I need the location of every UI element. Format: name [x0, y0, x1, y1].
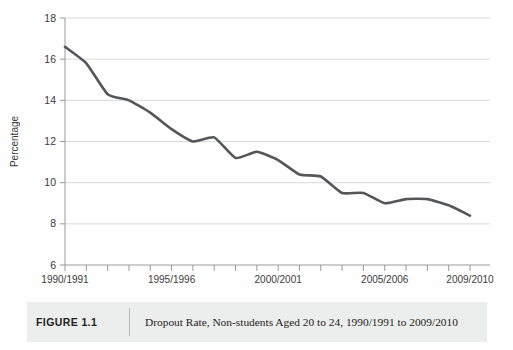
x-axis-tick-label: 1990/1991: [41, 274, 89, 285]
y-axis-tick-label: 14: [44, 94, 56, 106]
figure-number-label: FIGURE 1.1: [36, 316, 97, 328]
y-axis-tick-label: 8: [50, 217, 56, 229]
y-axis-tick-label: 16: [44, 53, 56, 65]
line-chart: 6810121416181990/19911995/19962000/20012…: [0, 0, 513, 292]
figure-caption-bar: FIGURE 1.1 Dropout Rate, Non-students Ag…: [27, 302, 487, 342]
y-axis-tick-label: 6: [50, 259, 56, 271]
x-axis-tick-label: 2000/2001: [255, 274, 303, 285]
figure-title-cell: Dropout Rate, Non-students Aged 20 to 24…: [130, 302, 487, 342]
y-axis-tick-label: 18: [44, 12, 56, 24]
data-series-line: [65, 47, 470, 216]
figure-container: 6810121416181990/19911995/19962000/20012…: [0, 0, 513, 350]
x-axis-tick-label: 2005/2006: [361, 274, 409, 285]
figure-number-cell: FIGURE 1.1: [27, 302, 129, 342]
y-axis-tick-label: 12: [44, 135, 56, 147]
x-axis-tick-label: 2009/2010: [446, 274, 494, 285]
y-axis-tick-label: 10: [44, 176, 56, 188]
y-axis-title: Percentage: [9, 115, 20, 167]
x-axis-tick-label: 1995/1996: [148, 274, 196, 285]
figure-title-text: Dropout Rate, Non-students Aged 20 to 24…: [145, 315, 458, 329]
chart-svg: 6810121416181990/19911995/19962000/20012…: [0, 0, 513, 292]
